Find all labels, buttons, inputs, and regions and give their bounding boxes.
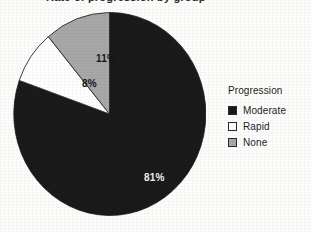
legend-label-none: None xyxy=(243,137,267,148)
legend-label-rapid: Rapid xyxy=(243,121,270,132)
legend-label-moderate: Moderate xyxy=(243,105,286,116)
pie-label-moderate: 81% xyxy=(144,172,165,183)
legend-swatch-icon-moderate xyxy=(228,106,237,115)
pie-label-rapid: 8% xyxy=(82,78,97,89)
legend-item-rapid[interactable]: Rapid xyxy=(228,119,286,134)
legend-swatch-icon-rapid xyxy=(228,122,237,131)
legend-item-moderate[interactable]: Moderate xyxy=(228,103,286,118)
page-title: Rate of progression by group xyxy=(46,0,206,3)
pie-chart: 81% 8% 11% xyxy=(13,12,206,216)
figure-title-clipped: Rate of progression by group xyxy=(0,0,312,4)
pie-slices xyxy=(14,12,206,215)
chart-page: Rate of progression by group 81% 8% 11% … xyxy=(0,0,312,232)
legend: Progression Moderate Rapid None xyxy=(228,85,286,151)
pie-label-none: 11% xyxy=(96,53,116,64)
pie-chart-svg xyxy=(13,12,206,216)
legend-title: Progression xyxy=(228,85,286,96)
legend-item-none[interactable]: None xyxy=(228,135,286,150)
legend-swatch-icon-none xyxy=(228,138,237,147)
